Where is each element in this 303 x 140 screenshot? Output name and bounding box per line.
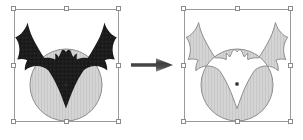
handle-s[interactable] xyxy=(64,119,69,124)
handle-e[interactable] xyxy=(116,63,121,68)
handle-w[interactable] xyxy=(11,63,16,68)
illustration-canvas xyxy=(0,0,303,140)
left-figure-group[interactable] xyxy=(14,9,119,122)
handle-sw[interactable] xyxy=(181,119,186,124)
handle-ne[interactable] xyxy=(288,6,293,11)
handle-se[interactable] xyxy=(288,119,293,124)
handle-s[interactable] xyxy=(235,119,240,124)
handle-ne[interactable] xyxy=(116,6,121,11)
right-figure-group[interactable] xyxy=(184,9,291,122)
handle-sw[interactable] xyxy=(11,119,16,124)
handle-n[interactable] xyxy=(64,6,69,11)
transform-arrow-icon xyxy=(131,57,173,73)
handle-nw[interactable] xyxy=(11,6,16,11)
left-selection-rect xyxy=(14,9,119,122)
arrow-path xyxy=(131,58,173,72)
handle-nw[interactable] xyxy=(181,6,186,11)
handle-w[interactable] xyxy=(181,63,186,68)
right-selection-rect xyxy=(184,9,291,122)
handle-se[interactable] xyxy=(116,119,121,124)
handle-e[interactable] xyxy=(288,63,293,68)
handle-n[interactable] xyxy=(235,6,240,11)
